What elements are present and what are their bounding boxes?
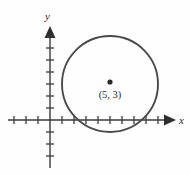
center-point-label: (5, 3): [99, 89, 122, 101]
x-axis-label: x: [178, 114, 184, 126]
x-axis-arrow-icon: [164, 115, 176, 126]
center-point-dot: [107, 79, 112, 84]
coordinate-plane-svg: x y (5, 3): [0, 0, 190, 175]
circle-graph-figure: x y (5, 3): [0, 0, 190, 175]
y-axis-label: y: [44, 10, 50, 22]
